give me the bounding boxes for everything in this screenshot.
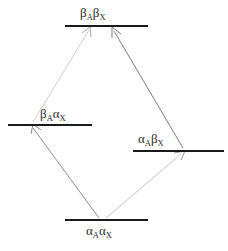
transition-ab-to-bb-line xyxy=(114,31,183,148)
transition-aa-to-ba xyxy=(31,124,99,218)
level-label-alpha-a-beta-x: αAβX xyxy=(138,132,164,145)
transition-arrows-group xyxy=(31,27,185,218)
level-label-alpha-a-alpha-x: αAαX xyxy=(86,224,112,237)
transition-ab-to-bb-arrowhead xyxy=(112,27,121,38)
transition-ba-to-bb-arrowhead xyxy=(82,27,91,37)
energy-level-lines-group xyxy=(8,26,224,220)
transition-aa-to-ab xyxy=(106,151,185,218)
level-label-beta-a-beta-x: βAβX xyxy=(80,6,106,19)
transition-aa-to-ba-line xyxy=(33,128,99,218)
level-label-beta-a-alpha-x: βAαX xyxy=(40,107,66,120)
energy-level-diagram: βAβX βAαX αAβX αAαX xyxy=(0,0,228,251)
transition-aa-to-ab-line xyxy=(106,154,181,218)
energy-level-svg-canvas xyxy=(0,0,228,251)
transition-ab-to-bb xyxy=(112,27,183,148)
